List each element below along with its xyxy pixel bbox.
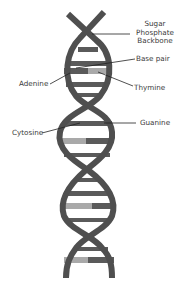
- label-cytosine: Cytosine: [12, 129, 43, 138]
- rung: [66, 218, 110, 222]
- rung: [64, 191, 112, 196]
- label-thymine: Thymine: [134, 84, 165, 93]
- rung-light: [60, 138, 86, 144]
- label-sugar-phosphate-backbone: Sugar Phosphate Backbone: [130, 20, 180, 46]
- label-backbone-line3: Backbone: [130, 37, 180, 46]
- rung: [68, 61, 108, 66]
- rung: [78, 47, 98, 52]
- rung-light: [62, 203, 92, 209]
- label-adenine: Adenine: [19, 80, 48, 89]
- label-base-pair: Base pair: [136, 55, 170, 64]
- label-guanine: Guanine: [140, 119, 170, 128]
